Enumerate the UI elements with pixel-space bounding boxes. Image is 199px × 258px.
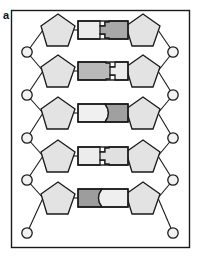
phosphate-circle-right-1 [168,47,178,57]
base-left-block-3 [78,104,109,122]
phosphate-circle-left-3 [22,133,32,143]
phosphate-circle-right-2 [168,90,178,100]
phosphate-circle-left-1 [22,47,32,57]
figure-panel: a [0,0,199,258]
phosphate-circle-right-5 [168,228,178,238]
phosphate-circle-right-4 [168,175,178,185]
dna-ladder-diagram [0,0,199,258]
phosphate-circle-left-4 [22,175,32,185]
base-right-block-3 [105,104,128,122]
base-pair-rung-5 [78,189,128,207]
phosphate-circle-left-2 [22,90,32,100]
base-pair-rung-3 [78,104,128,122]
base-right-block-5 [99,189,129,207]
phosphate-circle-right-3 [168,133,178,143]
figure-border-box [12,11,190,248]
phosphate-circle-left-5 [22,228,32,238]
base-pair-rung-2 [78,62,128,80]
